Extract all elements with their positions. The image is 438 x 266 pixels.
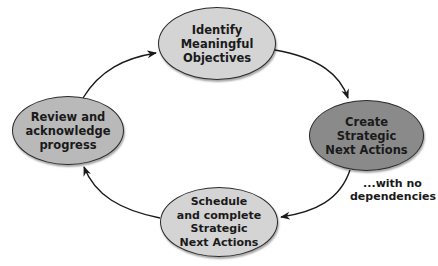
- node-create-next-actions: Create Strategic Next Actions: [309, 100, 424, 171]
- arrow-identify-to-create: [275, 50, 348, 98]
- node-label: Schedule and complete Strategic Next Act…: [177, 195, 261, 249]
- node-review-progress: Review and acknowledge progress: [12, 96, 124, 165]
- arrow-schedule-to-review: [84, 167, 160, 218]
- arrow-review-to-identify: [83, 53, 156, 98]
- node-identify-objectives: Identify Meaningful Objectives: [158, 7, 276, 80]
- edge-annotation-no-dependencies: ...with no dependencies: [350, 177, 435, 203]
- node-schedule-next-actions: Schedule and complete Strategic Next Act…: [160, 187, 278, 257]
- node-label: Create Strategic Next Actions: [325, 115, 407, 157]
- node-label: Identify Meaningful Objectives: [181, 23, 254, 65]
- arrow-create-to-schedule: [281, 170, 350, 217]
- node-label: Review and acknowledge progress: [26, 110, 111, 152]
